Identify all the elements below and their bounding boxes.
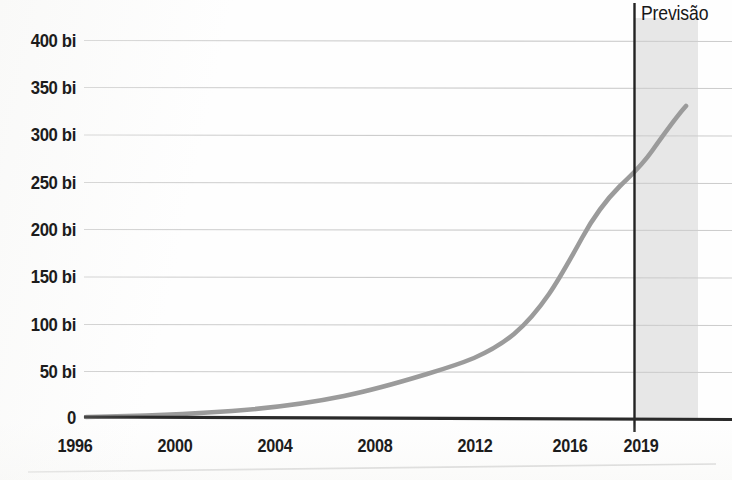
y-tick-50: 50 bi	[13, 361, 76, 383]
y-tick-200: 200 bi	[13, 219, 76, 241]
x-tick-2019: 2019	[624, 436, 659, 457]
x-axis-labels: 1996 2000 2004 2008 2012 2016 2019	[0, 436, 732, 466]
y-tick-300: 300 bi	[13, 124, 76, 146]
x-tick-2012: 2012	[458, 436, 493, 457]
forecast-band	[635, 18, 698, 418]
y-tick-0: 0	[13, 407, 76, 429]
y-tick-150: 150 bi	[13, 266, 76, 288]
y-tick-350: 350 bi	[13, 77, 76, 99]
x-tick-1996: 1996	[58, 436, 93, 457]
line-chart-plot	[0, 0, 732, 480]
chart-container: 400 bi 350 bi 300 bi 250 bi 200 bi 150 b…	[0, 0, 732, 480]
y-tick-400: 400 bi	[13, 30, 76, 52]
x-tick-2016: 2016	[553, 436, 588, 457]
y-axis-labels: 400 bi 350 bi 300 bi 250 bi 200 bi 150 b…	[0, 0, 76, 480]
data-series-line	[86, 106, 686, 417]
y-tick-250: 250 bi	[13, 172, 76, 194]
y-tick-100: 100 bi	[13, 314, 76, 336]
forecast-label: Previsão	[641, 1, 708, 25]
x-tick-2008: 2008	[358, 436, 393, 457]
x-tick-2004: 2004	[258, 436, 293, 457]
x-tick-2000: 2000	[158, 436, 193, 457]
